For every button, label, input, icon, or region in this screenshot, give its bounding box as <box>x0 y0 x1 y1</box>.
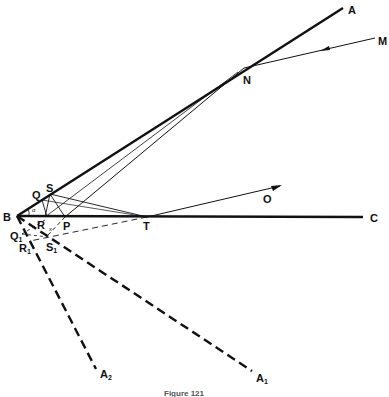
label-S: S <box>46 182 53 194</box>
segment-ST <box>50 194 147 217</box>
label-A1: A1 <box>256 372 268 385</box>
label-A: A <box>348 4 356 16</box>
label-P: P <box>63 220 70 232</box>
figure-caption: Figure 121 <box>164 389 205 397</box>
segment-QT <box>42 200 147 217</box>
light-ray-TO <box>147 186 280 217</box>
label-Q: Q <box>32 189 41 201</box>
ray-BA2 <box>17 216 96 369</box>
label-M: M <box>378 35 387 47</box>
arrow-icon <box>320 46 330 51</box>
reflection-diagram: A M N C O T B S Q P R α x Q1 R1 S1 A2 A1… <box>0 0 389 397</box>
dashed-T-R1 <box>30 217 147 241</box>
label-A2: A2 <box>100 368 112 381</box>
light-ray-N-B <box>45 72 238 217</box>
label-T: T <box>143 220 150 232</box>
label-O: O <box>263 193 272 205</box>
label-R: R <box>37 219 45 231</box>
label-B: B <box>3 211 11 223</box>
label-R1: R1 <box>19 242 31 255</box>
segment-QR <box>42 200 47 217</box>
label-N: N <box>243 74 251 86</box>
arrow-icon <box>271 185 282 191</box>
light-ray-MN <box>244 38 375 68</box>
ray-BA1 <box>17 216 252 371</box>
label-C: C <box>370 212 378 224</box>
ray-BC <box>17 216 363 217</box>
light-ray-NP <box>65 68 244 217</box>
ray-BA <box>17 8 343 216</box>
label-alpha: α <box>32 207 36 213</box>
label-x: x <box>49 226 52 232</box>
label-S1: S1 <box>46 241 57 254</box>
